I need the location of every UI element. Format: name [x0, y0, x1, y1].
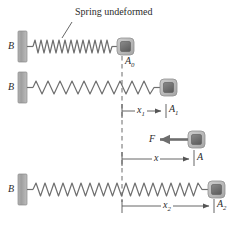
block-label-A0-sub: 0: [131, 61, 134, 68]
dimension-label-x: x: [152, 153, 160, 163]
block-A0-inner: [121, 42, 131, 52]
block-label-A0: A0: [125, 56, 135, 69]
wall-label-1: B: [8, 82, 14, 92]
wall-label-2: B: [8, 184, 14, 194]
row-stretched-1: [18, 72, 177, 103]
row-undeformed: [18, 31, 134, 62]
block-A2-inner: [212, 185, 222, 195]
wall-fixture-1: [18, 72, 27, 103]
force-label-F: F: [148, 134, 156, 144]
block-label-A2-sub: 2: [223, 204, 226, 211]
block-A1-inner: [164, 83, 174, 93]
block-label-A1-sub: 1: [175, 109, 178, 116]
block-label-A1: A1: [169, 104, 179, 117]
dimension-label-x1: x1: [135, 105, 147, 118]
block-A-force-inner: [192, 135, 202, 145]
spring-coils-1: [33, 81, 160, 94]
row-force: [160, 131, 205, 148]
wall-fixture-0: [18, 31, 27, 62]
dimension-label-x2-sub: 2: [167, 205, 170, 212]
block-label-A-force: A: [197, 152, 203, 162]
spring-coils-0: [33, 40, 117, 53]
caption-leader-line: [62, 22, 72, 38]
wall-fixture-2: [18, 174, 27, 205]
block-label-A2: A2: [217, 199, 227, 212]
dimension-label-x2: x2: [161, 200, 173, 213]
dimension-label-x1-sub: 1: [141, 110, 144, 117]
wall-label-0: B: [8, 41, 14, 51]
spring-deformation-figure: Spring undeformed B B B A0 A1 A A2 F x1 …: [0, 0, 239, 225]
caption-spring-undeformed: Spring undeformed: [75, 7, 153, 17]
spring-coils-2: [33, 183, 208, 196]
diagram-canvas: [0, 0, 239, 225]
